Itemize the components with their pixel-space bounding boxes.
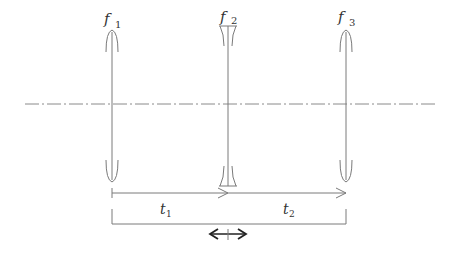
lens-f1-symbol: f xyxy=(103,10,112,28)
lens-f3-symbol: f xyxy=(337,8,346,26)
lens-f3: f 3 xyxy=(337,8,355,182)
lens-f2: f 2 xyxy=(219,8,237,186)
lens-f1: f 1 xyxy=(103,10,121,182)
zoom-lens-diagram: f 1 f 2 f 3 t 1 t 2 xyxy=(0,0,455,254)
lens-f3-subscript: 3 xyxy=(349,17,355,28)
movement-double-arrow-icon xyxy=(210,229,246,240)
t1-subscript: 1 xyxy=(166,209,172,219)
t2-subscript: 2 xyxy=(289,209,295,219)
lens-f1-subscript: 1 xyxy=(115,19,121,30)
lens-f2-subscript: 2 xyxy=(231,15,237,26)
total-length-bracket xyxy=(112,209,346,224)
lens-f2-symbol: f xyxy=(219,8,228,26)
distance-dimension: t 1 t 2 xyxy=(112,188,346,219)
